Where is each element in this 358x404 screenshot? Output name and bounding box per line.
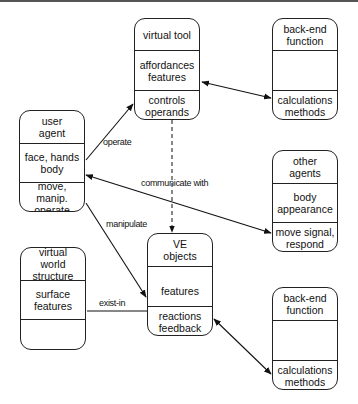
objects-backend-arrow bbox=[214, 319, 271, 374]
user-agent-box: user agent face, hands body move, manip.… bbox=[19, 110, 85, 212]
box-operations bbox=[21, 320, 85, 350]
box-attributes: surface features bbox=[21, 281, 85, 319]
box-title: back-end function bbox=[273, 19, 337, 50]
box-title: user agent bbox=[20, 111, 84, 143]
box-operations: move signal, respond bbox=[273, 223, 337, 252]
box-operations: move, manip. operate bbox=[20, 183, 84, 212]
box-operations: calculations methods bbox=[273, 361, 337, 390]
operate-arrow bbox=[86, 104, 133, 160]
box-operations: calculations methods bbox=[273, 91, 337, 120]
box-attributes: affordances features bbox=[135, 51, 199, 90]
box-title: VE objects bbox=[148, 234, 212, 266]
tool-backend-arrow bbox=[202, 82, 271, 98]
box-attributes: face, hands body bbox=[20, 144, 84, 182]
box-attributes bbox=[273, 51, 337, 90]
box-operations: controls operands bbox=[135, 91, 199, 120]
virtual-tool-box: virtual tool affordances features contro… bbox=[134, 18, 200, 120]
box-attributes: body appearance bbox=[273, 184, 337, 222]
ve-objects-box: VE objects features reactions feedback bbox=[147, 233, 213, 336]
box-attributes: features bbox=[148, 267, 212, 306]
operate-label: operate bbox=[103, 137, 131, 147]
box-title: back-end function bbox=[273, 288, 337, 320]
box-operations: reactions feedback bbox=[148, 307, 212, 336]
virtual-world-structure-box: virtual world structure surface features bbox=[20, 247, 86, 350]
other-agents-box: other agents body appearance move signal… bbox=[272, 150, 338, 252]
communicate-with-label: communicate with bbox=[141, 178, 208, 188]
box-title: other agents bbox=[273, 151, 337, 183]
box-title: virtual world structure bbox=[21, 248, 85, 280]
box-title: virtual tool bbox=[135, 19, 199, 50]
backend-function-bottom-box: back-end function calculations methods bbox=[272, 287, 338, 390]
manipulate-arrow bbox=[86, 203, 146, 297]
backend-function-top-box: back-end function calculations methods bbox=[272, 18, 338, 120]
manipulate-label: manipulate bbox=[106, 219, 147, 229]
exist-in-label: exist-in bbox=[99, 298, 125, 308]
box-attributes bbox=[273, 321, 337, 360]
